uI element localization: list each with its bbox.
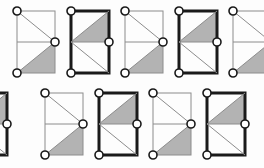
figure-cell	[68, 8, 112, 78]
vertex-node-top-left	[67, 7, 75, 15]
vertex-node-bottom-left	[41, 151, 49, 159]
vertex-node-mid-right	[51, 38, 59, 46]
figure-cell	[14, 8, 58, 78]
vertex-node-top-left	[229, 7, 237, 15]
vertex-node-bottom-left	[67, 69, 75, 77]
figure-cell	[176, 8, 220, 78]
vertex-node-bottom-left	[95, 151, 103, 159]
vertex-node-top-left	[13, 7, 21, 15]
figure-cell	[122, 8, 166, 78]
vertex-node-top-left	[203, 89, 211, 97]
vertex-node-top-left	[149, 89, 157, 97]
vertex-node-mid-right	[105, 38, 113, 46]
diagonal-line-1	[125, 11, 163, 42]
diagonal-line-1	[17, 11, 55, 42]
vertex-node-top-left	[41, 89, 49, 97]
vertex-node-mid-right	[159, 38, 167, 46]
diagonal-line-1	[233, 11, 264, 42]
diagonal-line-1	[45, 93, 83, 124]
vertex-node-mid-right	[187, 120, 195, 128]
figure-row-top	[0, 8, 264, 80]
diagonal-line-2	[179, 42, 217, 73]
figure-cell	[96, 90, 140, 160]
vertex-node-bottom-left	[203, 151, 211, 159]
vertex-node-bottom-left	[121, 69, 129, 77]
figure-cell	[150, 90, 194, 160]
figure-strip	[0, 0, 264, 168]
vertex-node-top-left	[175, 7, 183, 15]
figure-cell	[0, 90, 10, 160]
vertex-node-mid-right	[241, 120, 249, 128]
vertex-node-top-left	[121, 7, 129, 15]
vertex-node-bottom-left	[149, 151, 157, 159]
figure-cell	[230, 8, 264, 78]
figure-cell	[204, 90, 248, 160]
vertex-node-bottom-left	[13, 69, 21, 77]
vertex-node-mid-right	[79, 120, 87, 128]
figure-cell	[42, 90, 86, 160]
vertex-node-mid-right	[213, 38, 221, 46]
vertex-node-bottom-left	[175, 69, 183, 77]
figure-row-bottom	[0, 90, 264, 162]
vertex-node-mid-right	[3, 120, 11, 128]
shaded-triangle	[233, 42, 264, 73]
diagonal-line-2	[99, 124, 137, 155]
diagonal-line-1	[153, 93, 191, 124]
vertex-node-mid-right	[133, 120, 141, 128]
diagonal-line-2	[207, 124, 245, 155]
vertex-node-bottom-left	[229, 69, 237, 77]
diagonal-line-2	[71, 42, 109, 73]
vertex-node-top-left	[95, 89, 103, 97]
